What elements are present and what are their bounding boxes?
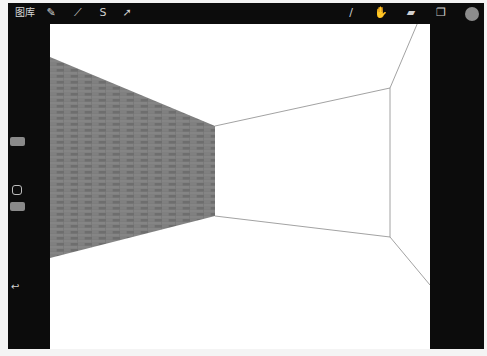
selection-icon[interactable]: S <box>96 6 110 20</box>
brush-icon[interactable]: / <box>344 6 358 20</box>
layers-icon[interactable]: ❐ <box>434 6 448 20</box>
actions-icon[interactable]: ✎ <box>44 6 58 20</box>
eraser-icon[interactable]: ▰ <box>404 6 418 20</box>
modify-button[interactable] <box>12 185 22 195</box>
left-sidebar: ↩ <box>8 24 50 349</box>
top-toolbar: 图库 ✎ ⟋ S ➚ / ✋ ▰ ❐ <box>8 3 484 24</box>
opacity-slider[interactable] <box>10 202 25 211</box>
smudge-icon[interactable]: ✋ <box>374 6 388 20</box>
adjustments-icon[interactable]: ⟋ <box>71 6 85 20</box>
procreate-app: 图库 ✎ ⟋ S ➚ / ✋ ▰ ❐ ↩ <box>8 3 484 349</box>
perspective-drawing <box>50 24 430 349</box>
color-picker-button[interactable] <box>465 7 479 21</box>
drawing-canvas[interactable] <box>50 24 430 349</box>
brush-size-slider[interactable] <box>10 137 25 146</box>
transform-icon[interactable]: ➚ <box>120 6 134 20</box>
undo-icon[interactable]: ↩ <box>11 281 19 292</box>
gallery-button[interactable]: 图库 <box>15 7 35 19</box>
brick-wall <box>50 57 215 258</box>
